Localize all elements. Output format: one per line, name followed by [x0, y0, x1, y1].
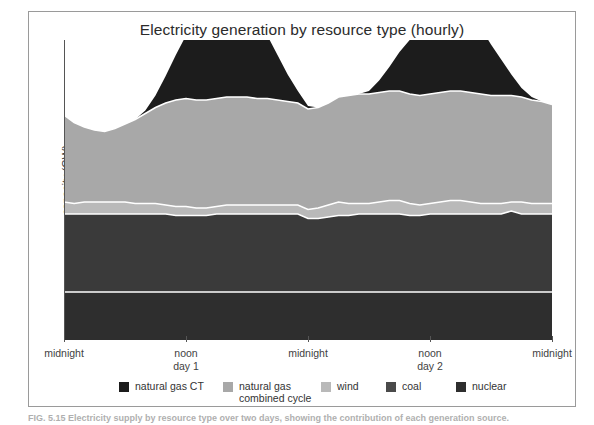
- figure-caption-strip: FIG. 5.15 Electricity supply by resource…: [28, 414, 576, 425]
- legend-label: wind: [337, 380, 359, 392]
- area-series-group: [64, 40, 552, 340]
- x-tick-mark: [186, 336, 187, 342]
- plot-area: [64, 40, 552, 340]
- legend-item-coal[interactable]: coal: [386, 380, 421, 392]
- legend-swatch-icon: [386, 382, 396, 392]
- legend-swatch-icon: [223, 382, 233, 392]
- x-tick-label: midnight: [19, 347, 109, 359]
- legend-label: natural gascombined cycle: [239, 380, 311, 404]
- legend-label: coal: [402, 380, 421, 392]
- x-axis-tick-1: noonday 1: [141, 342, 231, 372]
- chart-legend: natural gas CTnatural gascombined cyclew…: [29, 380, 575, 408]
- x-tick-label: noon: [141, 347, 231, 359]
- legend-label: nuclear: [472, 380, 506, 392]
- x-tick-mark: [552, 336, 553, 342]
- x-tick-label: noon: [385, 347, 475, 359]
- figure-caption: FIG. 5.15 Electricity supply by resource…: [28, 414, 509, 423]
- legend-swatch-icon: [119, 382, 129, 392]
- legend-item-natural-gas[interactable]: natural gascombined cycle: [223, 380, 311, 404]
- x-axis-labels: midnightnoonday 1midnightnoonday 2midnig…: [64, 342, 552, 378]
- legend-item-natural-gas-CT[interactable]: natural gas CT: [119, 380, 204, 392]
- x-axis-tick-4: midnight: [507, 342, 594, 359]
- x-axis-tick-2: midnight: [263, 342, 353, 359]
- legend-swatch-icon: [321, 382, 331, 392]
- legend-label: natural gas CT: [135, 380, 204, 392]
- area-series-coal: [64, 211, 552, 292]
- legend-item-wind[interactable]: wind: [321, 380, 359, 392]
- x-tick-label: midnight: [507, 347, 594, 359]
- legend-swatch-icon: [456, 382, 466, 392]
- figure-panel: Electricity generation by resource type …: [28, 11, 576, 407]
- legend-label-line2: combined cycle: [239, 392, 311, 404]
- x-tick-sublabel: day 2: [385, 360, 475, 372]
- x-tick-sublabel: day 1: [141, 360, 231, 372]
- legend-item-nuclear[interactable]: nuclear: [456, 380, 506, 392]
- stacked-area-chart: [64, 40, 552, 340]
- x-axis-tick-3: noonday 2: [385, 342, 475, 372]
- x-tick-mark: [64, 336, 65, 342]
- chart-title: Electricity generation by resource type …: [29, 21, 575, 39]
- x-tick-mark: [430, 336, 431, 342]
- x-tick-label: midnight: [263, 347, 353, 359]
- x-axis-tick-0: midnight: [19, 342, 109, 359]
- x-tick-mark: [308, 336, 309, 342]
- area-series-nuclear: [64, 292, 552, 340]
